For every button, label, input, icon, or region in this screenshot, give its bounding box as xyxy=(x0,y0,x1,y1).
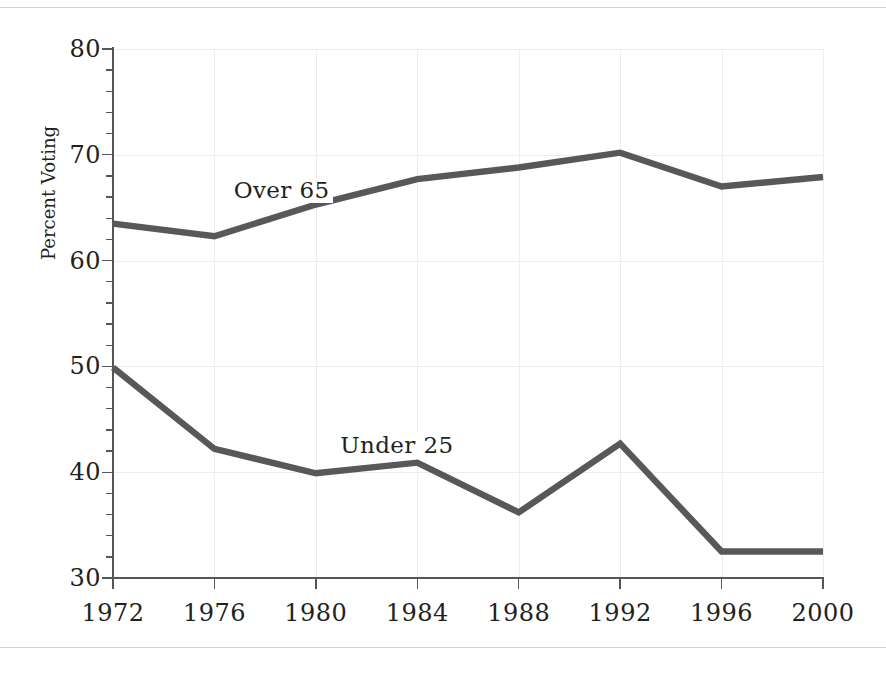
y-tick-minor xyxy=(106,91,113,92)
y-tick-major xyxy=(102,154,113,155)
y-tick-minor xyxy=(106,302,113,303)
y-tick-minor xyxy=(106,387,113,388)
figure: Percent Voting 304050607080 197219761980… xyxy=(0,14,886,642)
y-tick-minor xyxy=(106,69,113,70)
y-tick-label: 60 xyxy=(69,249,101,273)
x-tick-label: 1984 xyxy=(386,601,449,625)
y-tick-label: 80 xyxy=(69,37,101,61)
x-tick-label: 1972 xyxy=(81,601,144,625)
y-tick-minor xyxy=(106,133,113,134)
y-axis-title: Percent Voting xyxy=(40,126,58,260)
x-tick-major xyxy=(417,578,418,589)
y-tick-minor xyxy=(106,556,113,557)
y-tick-label: 40 xyxy=(69,460,101,484)
y-tick-major xyxy=(102,48,113,49)
page-rule-bottom xyxy=(0,647,886,648)
x-tick-major xyxy=(721,578,722,589)
y-tick-minor xyxy=(106,175,113,176)
y-tick-major xyxy=(102,260,113,261)
x-tick-major xyxy=(315,578,316,589)
y-tick-label: 70 xyxy=(69,143,101,167)
y-tick-minor xyxy=(106,450,113,451)
x-tick-label: 1992 xyxy=(589,601,652,625)
series-line xyxy=(113,153,823,237)
y-tick-minor xyxy=(106,429,113,430)
series-line xyxy=(113,367,823,551)
x-tick-label: 1980 xyxy=(284,601,347,625)
x-tick-label: 1988 xyxy=(487,601,550,625)
series-label-over-65: Over 65 xyxy=(230,178,334,203)
y-tick-minor xyxy=(106,514,113,515)
page-rule-top xyxy=(0,7,886,8)
y-tick-label: 30 xyxy=(69,566,101,590)
series-label-under-25: Under 25 xyxy=(336,433,457,458)
x-tick-major xyxy=(518,578,519,589)
x-tick-major xyxy=(822,578,823,589)
x-tick-label: 1976 xyxy=(183,601,246,625)
y-tick-minor xyxy=(106,408,113,409)
y-tick-minor xyxy=(106,239,113,240)
x-tick-major xyxy=(619,578,620,589)
y-tick-minor xyxy=(106,493,113,494)
y-tick-minor xyxy=(106,535,113,536)
y-tick-major xyxy=(102,472,113,473)
y-tick-minor xyxy=(106,218,113,219)
x-tick-major xyxy=(112,578,113,589)
x-tick-label: 2000 xyxy=(791,601,854,625)
x-tick-major xyxy=(214,578,215,589)
y-tick-minor xyxy=(106,196,113,197)
chart-page: Percent Voting 304050607080 197219761980… xyxy=(0,0,886,677)
series-lines xyxy=(113,49,823,578)
y-tick-minor xyxy=(106,281,113,282)
x-tick-label: 1996 xyxy=(690,601,753,625)
y-tick-minor xyxy=(106,323,113,324)
plot-area: 304050607080 197219761980198419881992199… xyxy=(113,49,823,578)
y-tick-label: 50 xyxy=(69,354,101,378)
y-tick-major xyxy=(102,366,113,367)
y-tick-minor xyxy=(106,345,113,346)
gridline-vertical xyxy=(823,49,824,578)
y-tick-minor xyxy=(106,112,113,113)
